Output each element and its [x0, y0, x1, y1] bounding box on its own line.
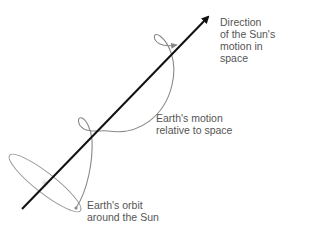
- earth-motion-label: Earth's motion relative to space: [156, 112, 232, 136]
- sun-icon: [39, 177, 51, 189]
- earth-position-dot: [74, 206, 77, 209]
- earth-orbit-label: Earth's orbit around the Sun: [87, 199, 159, 223]
- sun-direction-label: Direction of the Sun's motion in space: [220, 16, 275, 64]
